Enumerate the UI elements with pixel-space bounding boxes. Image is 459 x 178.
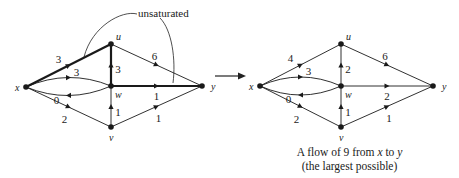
edge-arrow-icon — [385, 83, 390, 88]
edge-w-u: 3 — [108, 44, 121, 86]
graph-after: 430221621xuwvy — [248, 31, 447, 143]
edge-flow-label: 3 — [306, 65, 312, 77]
edge-flow-label: 2 — [294, 113, 300, 125]
edge-arrow-icon — [298, 92, 303, 97]
node-label-w: w — [115, 89, 122, 100]
edge-x-v: 2 — [26, 87, 111, 127]
edge-flow-label: 1 — [115, 106, 121, 118]
node-label-y: y — [210, 81, 216, 92]
node-y — [199, 83, 205, 89]
edge-arrow-icon — [338, 63, 343, 68]
edge-x-v: 2 — [260, 86, 341, 127]
edge-flow-label: 4 — [288, 52, 294, 64]
edge-flow-label: 1 — [156, 112, 162, 124]
node-w — [108, 83, 114, 89]
node-u — [108, 41, 114, 47]
caption-sink: y — [397, 146, 402, 158]
node-y — [430, 83, 436, 89]
edge-arrow-icon — [338, 104, 343, 109]
node-u — [338, 41, 344, 47]
node-w — [338, 83, 344, 89]
edge-flow-label: 1 — [345, 106, 351, 118]
edge-w-x: 0 — [26, 86, 111, 106]
edge-x-w: 3 — [260, 65, 341, 86]
node-x — [257, 83, 263, 89]
edge-x-u: 3 — [26, 44, 111, 87]
edge-flow-label: 2 — [345, 63, 351, 75]
graph-before: 330231611xuwvy — [14, 31, 216, 143]
edge-flow-label: 2 — [62, 113, 68, 125]
edge-arrow-icon — [108, 63, 113, 68]
node-label-v: v — [339, 132, 344, 143]
edge-w-y: 2 — [341, 83, 433, 102]
node-label-u: u — [116, 31, 121, 42]
edge-arrow-icon — [154, 83, 159, 88]
edge-flow-label: 3 — [56, 53, 62, 65]
edge-flow-label: 1 — [386, 112, 392, 124]
transition-arrow — [215, 73, 246, 80]
edge-arrow-icon — [298, 74, 303, 79]
edge-flow-label: 1 — [154, 90, 160, 102]
edge-w-y: 1 — [111, 83, 202, 102]
edge-x-w: 3 — [26, 66, 111, 88]
edge-x-u: 4 — [260, 44, 341, 86]
caption-line-2: (the largest possible) — [240, 159, 459, 173]
edge-arrow-icon — [66, 93, 71, 98]
node-v — [108, 124, 114, 130]
caption-text: A flow of 9 from — [297, 146, 378, 158]
unsaturated-label: unsaturated — [138, 7, 189, 19]
caption-line-1: A flow of 9 from x to y — [240, 145, 459, 159]
node-x — [23, 84, 29, 90]
node-label-x: x — [14, 82, 20, 93]
edge-flow-label: 3 — [74, 66, 80, 78]
edge-flow-label: 6 — [152, 50, 158, 62]
edge-flow-label: 6 — [382, 50, 388, 62]
edge-flow-label: 0 — [54, 94, 60, 106]
edge-flow-label: 3 — [115, 63, 121, 75]
unsaturated-annotation: unsaturated — [84, 7, 189, 83]
edge-u-y: 6 — [111, 44, 202, 86]
node-label-y: y — [441, 81, 447, 92]
node-label-u: u — [346, 31, 351, 42]
node-label-w: w — [345, 89, 352, 100]
edge-arrow-icon — [108, 104, 113, 109]
caption-text: to — [383, 146, 398, 158]
node-label-x: x — [248, 81, 254, 92]
edge-w-x: 0 — [260, 86, 341, 105]
edge-w-u: 2 — [338, 44, 350, 86]
node-label-v: v — [109, 132, 114, 143]
edge-u-y: 6 — [341, 44, 433, 86]
edge-arrow-icon — [66, 75, 71, 80]
edge-flow-label: 2 — [384, 90, 390, 102]
node-v — [338, 124, 344, 130]
